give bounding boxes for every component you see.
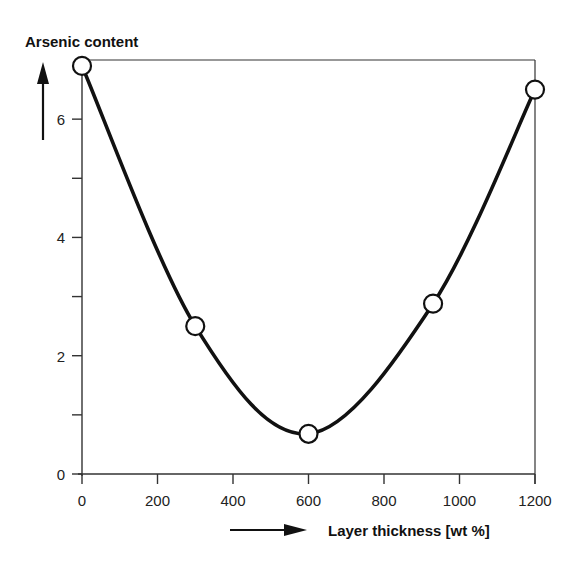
x-axis-title: Layer thickness [wt %] bbox=[328, 522, 490, 539]
y-tick-label: 4 bbox=[57, 229, 65, 246]
x-axis-arrow-icon bbox=[230, 524, 307, 536]
data-point-marker bbox=[73, 57, 91, 75]
data-point-marker bbox=[424, 295, 442, 313]
data-curve bbox=[82, 66, 535, 434]
x-tick-label: 0 bbox=[78, 492, 86, 509]
chart: 020040060080010001200 0246 Arsenic conte… bbox=[0, 0, 583, 568]
data-point-marker bbox=[300, 425, 318, 443]
data-point-marker bbox=[186, 317, 204, 335]
data-markers bbox=[73, 57, 544, 443]
x-axis-ticks: 020040060080010001200 bbox=[78, 474, 552, 509]
x-tick-label: 200 bbox=[145, 492, 170, 509]
y-tick-label: 6 bbox=[57, 111, 65, 128]
x-tick-label: 1200 bbox=[518, 492, 551, 509]
plot-frame bbox=[78, 60, 535, 484]
x-tick-label: 600 bbox=[296, 492, 321, 509]
y-axis-title: Arsenic content bbox=[25, 33, 138, 50]
y-axis-arrow-icon bbox=[37, 62, 49, 140]
y-axis-ticks: 0246 bbox=[57, 111, 82, 483]
data-point-marker bbox=[526, 81, 544, 99]
y-tick-label: 2 bbox=[57, 348, 65, 365]
x-tick-label: 400 bbox=[220, 492, 245, 509]
y-tick-label: 0 bbox=[57, 466, 65, 483]
x-tick-label: 1000 bbox=[443, 492, 476, 509]
x-tick-label: 800 bbox=[371, 492, 396, 509]
